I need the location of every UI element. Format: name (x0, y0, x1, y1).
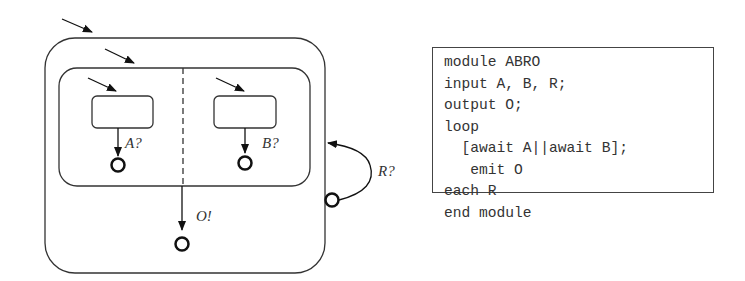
code-line: input A, B, R; (444, 74, 713, 96)
code-line: loop (444, 117, 713, 139)
final-state-outer (176, 238, 189, 251)
region-a-wait-state (92, 96, 153, 128)
label-reset: R? (377, 163, 395, 179)
label-a: A? (124, 135, 142, 151)
parallel-macrostate (59, 68, 310, 186)
initial-arrow-outer (62, 19, 92, 32)
initial-arrow-parallel (105, 49, 134, 63)
initial-arrow-b (216, 78, 244, 91)
reset-loop (328, 143, 371, 200)
region-b-wait-state (214, 96, 276, 128)
code-line: module ABRO (444, 52, 713, 74)
final-state-b (239, 157, 252, 170)
final-state-a (112, 159, 125, 172)
code-line: output O; (444, 95, 713, 117)
esterel-code-listing: module ABRO input A, B, R; output O; loo… (432, 47, 714, 193)
label-b: B? (262, 135, 279, 151)
initial-arrow-a (88, 78, 116, 91)
abro-statechart: A? B? O! R? (0, 0, 420, 281)
code-line: emit O (444, 160, 713, 182)
code-line: end module (444, 203, 713, 225)
reset-source (326, 194, 339, 207)
label-emit: O! (196, 208, 212, 224)
code-line: [await A||await B]; (444, 138, 713, 160)
code-line: each R (444, 181, 713, 203)
